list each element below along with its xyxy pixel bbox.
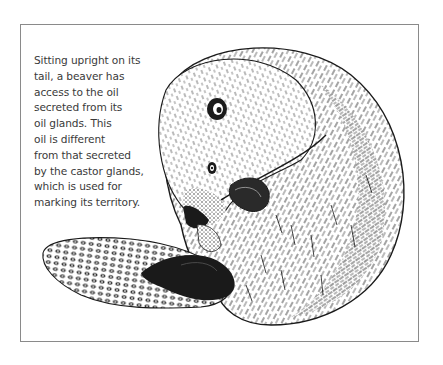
caption-line: marking its territory. [34,195,159,211]
caption-line: secreted from its [34,100,159,116]
caption-line: oil is different [34,132,159,148]
illustration-frame: Sitting upright on its tail, a beaver ha… [20,24,419,342]
caption-line: access to the oil [34,85,159,101]
caption-text: Sitting upright on its tail, a beaver ha… [34,53,159,211]
caption-line: Sitting upright on its [34,53,159,69]
caption-line: from that secreted [34,148,159,164]
caption-line: which is used for [34,179,159,195]
caption-line: tail, a beaver has [34,69,159,85]
caption-line: by the castor glands, [34,164,159,180]
caption-line: oil glands. This [34,116,159,132]
